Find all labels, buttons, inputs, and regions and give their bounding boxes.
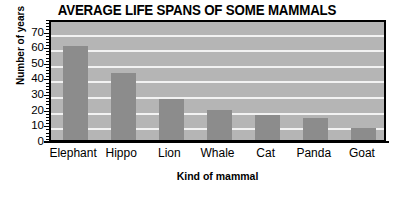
- x-tick-label: Goat: [349, 146, 375, 160]
- plot-inner: [51, 22, 384, 140]
- x-tick-label: Panda: [296, 146, 331, 160]
- gridline: [51, 66, 384, 68]
- bar-cat: [255, 115, 280, 140]
- bar-lion: [159, 99, 184, 140]
- y-tick-label: 50: [16, 58, 44, 70]
- gridline: [51, 50, 384, 52]
- y-tick-label: 30: [16, 89, 44, 101]
- gridline: [51, 35, 384, 37]
- bar-whale: [207, 110, 232, 140]
- y-tick-label: 70: [16, 27, 44, 39]
- chart-title: AVERAGE LIFE SPANS OF SOME MAMMALS: [16, 2, 378, 18]
- chart-figure: AVERAGE LIFE SPANS OF SOME MAMMALS Numbe…: [0, 0, 394, 203]
- x-tick-label: Lion: [158, 146, 181, 160]
- x-tick-label: Cat: [256, 146, 275, 160]
- x-axis-tick-labels: ElephantHippoLionWhaleCatPandaGoat: [49, 146, 386, 164]
- x-tick-label: Elephant: [49, 146, 96, 160]
- y-tick-label: 40: [16, 74, 44, 86]
- x-axis-line: [44, 141, 389, 143]
- x-axis-label: Kind of mammal: [49, 170, 386, 182]
- plot-area: [49, 20, 386, 142]
- y-tick-label: 20: [16, 105, 44, 117]
- bar-elephant: [63, 46, 88, 140]
- y-tick-label: 10: [16, 121, 44, 133]
- bar-goat: [351, 128, 376, 141]
- gridline: [51, 81, 384, 83]
- bar-hippo: [111, 73, 136, 140]
- gridline: [51, 97, 384, 99]
- x-tick-label: Hippo: [106, 146, 137, 160]
- y-axis-tick-labels: 010203040506070: [16, 0, 44, 203]
- x-tick-label: Whale: [200, 146, 234, 160]
- bar-panda: [303, 118, 328, 140]
- y-tick-label: 60: [16, 42, 44, 54]
- y-tick-label: 0: [16, 136, 44, 148]
